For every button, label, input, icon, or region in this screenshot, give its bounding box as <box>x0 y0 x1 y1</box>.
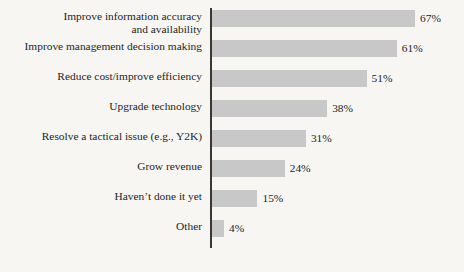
value-label: 4% <box>229 219 244 237</box>
value-label: 51% <box>372 69 393 87</box>
category-label: Resolve a tactical issue (e.g., Y2K) <box>12 130 202 143</box>
bar-row: Improve information accuracy and availab… <box>0 8 464 38</box>
value-label: 15% <box>262 189 283 207</box>
category-label: Improve management decision making <box>12 40 202 53</box>
bar <box>212 130 306 147</box>
bar-row: Resolve a tactical issue (e.g., Y2K) 31% <box>0 128 464 158</box>
value-label: 24% <box>290 159 311 177</box>
value-label: 67% <box>420 9 441 27</box>
value-label: 31% <box>311 129 332 147</box>
category-label: Grow revenue <box>12 160 202 173</box>
value-label: 38% <box>332 99 353 117</box>
bar <box>212 220 224 237</box>
category-label: Haven’t done it yet <box>12 190 202 203</box>
bar <box>212 10 415 27</box>
category-label: Improve information accuracy and availab… <box>12 10 202 36</box>
category-label: Other <box>12 220 202 233</box>
bar-row: Other 4% <box>0 218 464 248</box>
category-label: Upgrade technology <box>12 100 202 113</box>
bar <box>212 160 285 177</box>
bar <box>212 190 257 207</box>
value-label: 61% <box>402 39 423 57</box>
bar <box>212 100 327 117</box>
bar <box>212 70 367 87</box>
category-label: Reduce cost/improve efficiency <box>12 70 202 83</box>
bar-chart: Improve information accuracy and availab… <box>0 0 464 272</box>
bar <box>212 40 397 57</box>
bar-row: Upgrade technology 38% <box>0 98 464 128</box>
bar-row: Grow revenue 24% <box>0 158 464 188</box>
bar-row: Haven’t done it yet 15% <box>0 188 464 218</box>
bar-row: Reduce cost/improve efficiency 51% <box>0 68 464 98</box>
bar-row: Improve management decision making 61% <box>0 38 464 68</box>
